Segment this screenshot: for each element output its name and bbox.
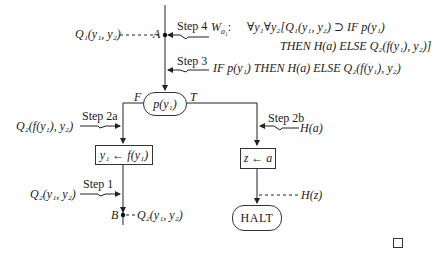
step4-formula-name: Wa₁:	[211, 21, 231, 38]
end-of-proof-mark	[393, 238, 403, 248]
point-a-assertion: Q₁(y₁, y₂)	[75, 28, 121, 41]
point-a-label: A	[153, 28, 160, 41]
step2a-formula: Q₂(f(y₁), y₂)	[16, 120, 73, 133]
step3-label: Step 3	[177, 55, 207, 68]
halt-node: HALT	[232, 205, 282, 231]
flowchart-diagram: Q₁(y₁, y₂) A Step 4 Wa₁: ∀y₁∀y₂[Q₁(y₁, y…	[0, 0, 440, 253]
step2b-formula: H(a)	[300, 122, 323, 135]
halt-assertion: H(z)	[301, 189, 322, 202]
step1-formula: Q₂(y₁, y₂)	[30, 188, 76, 201]
assign-z-box: z ← a	[240, 148, 276, 169]
step4-label: Step 4	[177, 20, 207, 33]
step4-formula-line1: ∀y₁∀y₂[Q₁(y₁, y₂) ⊃ IF p(y₁)	[247, 21, 385, 34]
false-branch-label: F	[134, 91, 141, 104]
point-b-assertion: Q₂(y₁, y₂)	[137, 209, 183, 222]
test-node-p-y1: p(y₁)	[143, 92, 187, 116]
step2b-label: Step 2b	[268, 112, 304, 125]
step2a-label: Step 2a	[82, 110, 118, 123]
true-branch-label: T	[190, 91, 197, 104]
step4-formula-line2: THEN H(a) ELSE Q₂(f(y₁), y₂)]	[280, 40, 432, 53]
step1-label: Step 1	[83, 178, 113, 191]
step3-formula: IF p(y₁) THEN H(a) ELSE Q₂(f(y₁), y₂)	[213, 62, 401, 75]
assign-y1-box: y₁ ← f(y₁)	[95, 145, 153, 165]
point-b-label: B	[111, 209, 118, 222]
